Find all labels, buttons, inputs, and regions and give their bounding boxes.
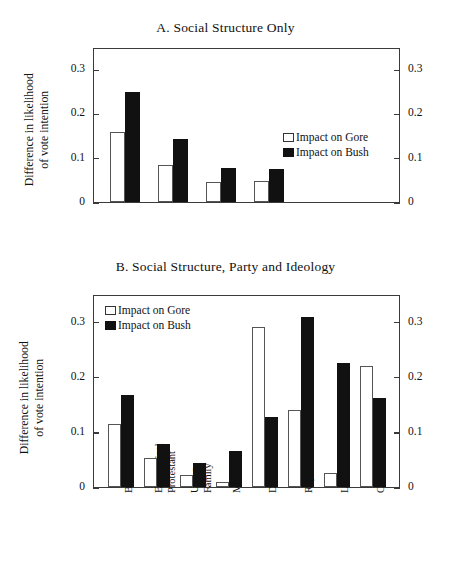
bar-gore-liberal [324,473,337,487]
panel-a-plot-area [94,49,399,202]
y-tick-left-0.2 [93,114,99,115]
y-tick-label-right-0.1: 0.1 [408,151,442,163]
panel-a-plot-frame [93,48,400,203]
y-tick-right-0.1 [394,158,400,159]
legend-swatch-gore-icon [105,306,116,315]
bar-bush-conservative [373,398,386,487]
y-axis-title-line2: of vote intention [37,50,52,210]
y-tick-label-left-0.1: 0.1 [51,425,85,437]
y-tick-right-0.2 [394,114,400,115]
y-tick-right-0.3 [394,70,400,71]
legend-label-gore: Impact on Gore [296,130,368,145]
y-tick-label-right-0.2: 0.2 [408,370,442,382]
y-tick-right-0.1 [394,432,400,433]
y-tick-right-0.3 [394,322,400,323]
bar-bush-male [269,169,284,202]
y-tick-label-right-0.2: 0.2 [408,106,442,118]
bar-gore-black [110,132,125,202]
panel-a: A. Social Structure Only Difference in l… [0,0,451,255]
bar-gore-republican [288,410,301,487]
panel-b: B. Social Structure, Party and Ideology … [0,255,451,573]
bar-gore-conservative [360,366,373,487]
y-tick-label-right-0.3: 0.3 [408,62,442,74]
bar-gore-black [108,424,121,487]
bar-bush-republican [301,317,314,487]
legend-entry-gore: Impact on Gore [283,130,369,145]
bar-bush-black [121,395,134,487]
y-tick-label-right-0.3: 0.3 [408,315,442,327]
y-tick-left-0.2 [93,377,99,378]
y-tick-label-left-0: 0 [51,480,85,492]
y-tick-left-0.1 [93,158,99,159]
y-tick-label-left-0.3: 0.3 [51,315,85,327]
bar-gore-union-family [206,182,221,202]
y-tick-left-0.1 [93,432,99,433]
y-axis-title-line2: of vote intention [32,318,47,478]
y-tick-label-left-0.3: 0.3 [51,62,85,74]
y-tick-left-0 [93,203,99,204]
legend-entry-bush: Impact on Bush [105,318,191,333]
bar-bush-black [125,92,140,202]
panel-b-title: B. Social Structure, Party and Ideology [0,259,451,275]
bar-gore-male [254,181,269,202]
bar-bush-evangelical-protestant [173,139,188,202]
y-tick-label-left-0: 0 [51,195,85,207]
bar-bush-democrat [265,417,278,487]
legend-swatch-gore-icon [283,133,294,142]
y-axis-title-line1: Difference in likelihood [22,50,37,210]
y-tick-right-0 [394,203,400,204]
y-tick-label-left-0.2: 0.2 [51,370,85,382]
bar-bush-union-family [193,463,206,487]
y-tick-label-right-0.1: 0.1 [408,425,442,437]
legend-label-bush: Impact on Bush [118,318,191,333]
bar-gore-evangelical-protestant [158,165,173,202]
y-tick-right-0 [394,488,400,489]
panel-b-y-axis-title: Difference in likelihood of vote intenti… [17,318,46,478]
legend-swatch-bush-icon [105,321,116,330]
bar-gore-evangelical-protestant [144,458,157,487]
panel-a-title: A. Social Structure Only [0,20,451,36]
y-tick-label-right-0: 0 [408,195,442,207]
y-tick-right-0.2 [394,377,400,378]
bar-bush-union-family [221,168,236,202]
bar-gore-democrat [252,327,265,487]
legend-entry-gore: Impact on Gore [105,303,191,318]
bar-gore-male [216,482,229,488]
legend-label-gore: Impact on Gore [118,303,190,318]
y-tick-label-left-0.1: 0.1 [51,151,85,163]
bar-bush-evangelical-protestant [157,444,170,487]
panel-a-legend: Impact on Gore Impact on Bush [283,130,369,160]
panel-b-legend: Impact on Gore Impact on Bush [105,303,191,333]
y-axis-title-line1: Difference in likelihood [17,318,32,478]
panel-a-y-axis-title: Difference in likelihood of vote intenti… [22,50,51,210]
y-tick-label-left-0.2: 0.2 [51,106,85,118]
legend-entry-bush: Impact on Bush [283,145,369,160]
legend-label-bush: Impact on Bush [296,145,369,160]
y-tick-left-0.3 [93,70,99,71]
y-tick-left-0 [93,488,99,489]
figure-container: A. Social Structure Only Difference in l… [0,0,451,573]
bar-bush-liberal [337,363,350,487]
legend-swatch-bush-icon [283,148,294,157]
bar-gore-union-family [180,475,193,487]
y-tick-left-0.3 [93,322,99,323]
bar-bush-male [229,451,242,487]
y-tick-label-right-0: 0 [408,480,442,492]
